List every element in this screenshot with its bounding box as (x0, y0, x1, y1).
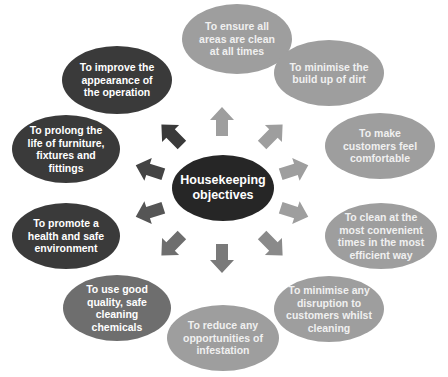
objective-improve-appearance: To improve the appearance of the operati… (62, 46, 172, 114)
arrow-up-right-icon (254, 116, 291, 153)
objective-text: To clean at the most convenient times in… (335, 211, 427, 261)
arrow-up-icon (210, 107, 234, 136)
objective-text: To make customers feel comfortable (341, 127, 419, 165)
arrow-left-up-icon (132, 154, 167, 186)
objective-text: To reduce any opportunities of infestati… (181, 319, 265, 357)
objective-text: To improve the appearance of the operati… (76, 61, 158, 99)
center-node: Housekeeping objectives (172, 155, 274, 221)
arrow-left-down-icon (132, 196, 167, 228)
objective-text: To use good quality, safe cleaning chemi… (81, 283, 153, 333)
objective-minimise-dirt: To minimise the build up of dirt (274, 40, 384, 106)
objective-reduce-infestation: To reduce any opportunities of infestati… (167, 305, 279, 371)
objective-text: To minimise the build up of dirt (288, 61, 370, 86)
arrow-down-icon (210, 244, 234, 273)
arrow-right-down-icon (277, 196, 312, 228)
objective-clean-convenient: To clean at the most convenient times in… (325, 203, 437, 269)
arrow-up-left-icon (153, 116, 190, 153)
arrow-down-right-icon (254, 227, 291, 264)
objective-text: To ensure all areas are clean at all tim… (194, 20, 280, 58)
objective-good-chemicals: To use good quality, safe cleaning chemi… (63, 275, 171, 341)
arrow-right-up-icon (277, 154, 312, 186)
objective-text: To prolong the life of furniture, fixtur… (24, 124, 108, 174)
objective-text: To promote a health and safe environment (26, 217, 106, 255)
objective-health-safe: To promote a health and safe environment (12, 203, 120, 269)
center-label-line2: objectives (180, 188, 265, 203)
center-label-line1: Housekeeping (180, 173, 265, 188)
objective-customers-comfortable: To make customers feel comfortable (325, 113, 435, 179)
objective-minimise-disruption: To minimise any disruption to customers … (274, 276, 384, 342)
arrow-down-left-icon (153, 227, 190, 264)
objective-text: To minimise any disruption to customers … (284, 284, 374, 334)
objective-prolong-life: To prolong the life of furniture, fixtur… (12, 115, 120, 183)
